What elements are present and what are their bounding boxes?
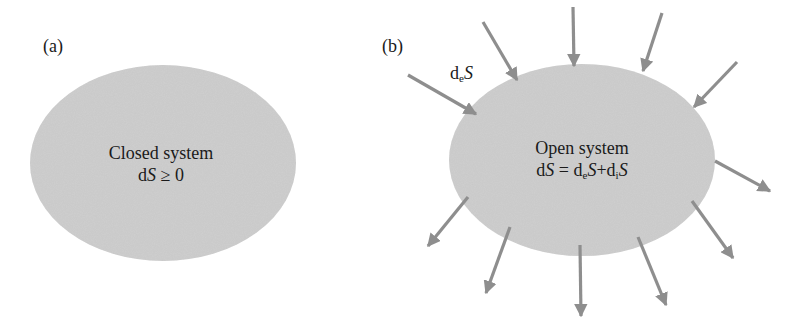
flux-d: d (450, 63, 459, 83)
outward-arrow-icon (715, 161, 770, 191)
inward-arrow-icon (573, 7, 574, 66)
eq-S: S (147, 165, 156, 185)
eq-t2-d: d (607, 160, 616, 180)
eq-d: d (138, 165, 147, 185)
inward-arrow-icon (694, 62, 737, 107)
panel-b-label: (b) (382, 36, 403, 57)
open-system-equation: dS = deS+diS (535, 159, 629, 186)
eq-t2-S: S (619, 160, 628, 180)
closed-system-equation: dS ≥ 0 (109, 164, 214, 186)
open-system-title: Open system (535, 137, 629, 159)
eq-t1-S: S (587, 160, 596, 180)
outward-arrow-icon (638, 237, 666, 305)
open-system-text: Open system dS = deS+diS (535, 137, 629, 186)
outward-arrow-icon (486, 227, 510, 293)
entropy-flux-label: deS (450, 63, 473, 84)
eq-t1-d: d (574, 160, 583, 180)
eq-lhs-d: d (536, 160, 545, 180)
panel-a-label: (a) (43, 36, 63, 57)
inward-arrow-icon (643, 13, 662, 71)
closed-system-text: Closed system dS ≥ 0 (109, 142, 214, 186)
eq-equals: = (554, 160, 573, 180)
flux-S: S (464, 63, 473, 83)
closed-system-title: Closed system (109, 142, 214, 164)
outward-arrow-icon (428, 197, 468, 246)
eq-lhs-S: S (545, 160, 554, 180)
eq-rel: ≥ 0 (156, 165, 184, 185)
outward-arrow-icon (692, 201, 733, 258)
inward-arrow-icon (483, 22, 517, 80)
outward-arrow-icon (580, 245, 581, 316)
eq-plus: + (596, 160, 606, 180)
